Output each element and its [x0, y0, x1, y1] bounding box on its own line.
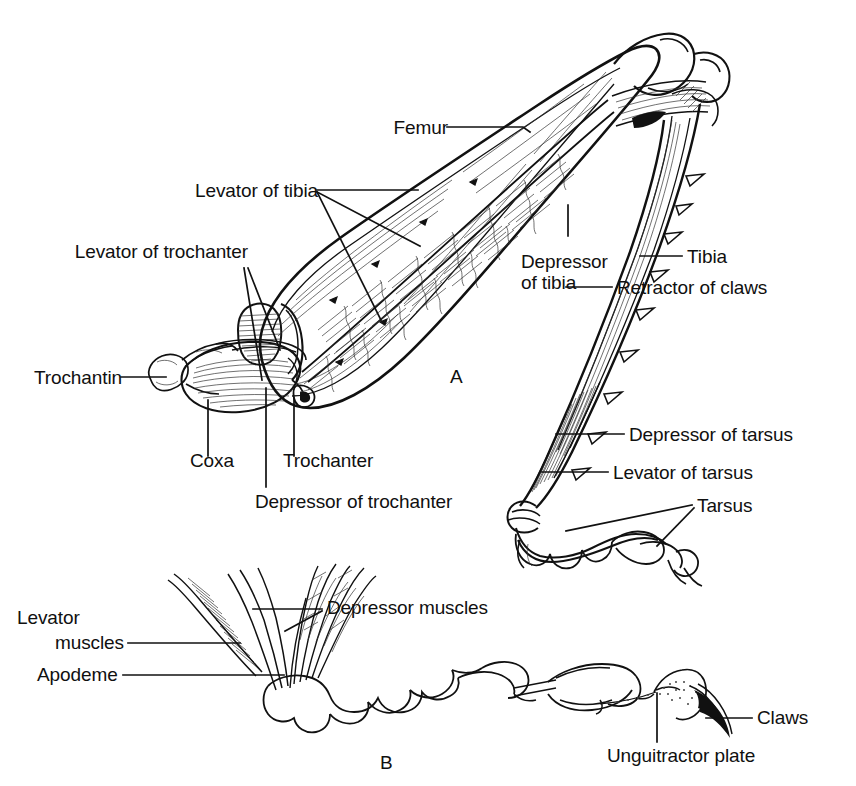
- label-levator-muscles-line2: muscles: [55, 632, 124, 653]
- label-depressor-muscles: Depressor muscles: [327, 597, 488, 618]
- label-levator-of-tibia: Levator of tibia: [20, 180, 318, 201]
- label-claws: Claws: [757, 707, 808, 728]
- figure-label-a: A: [450, 366, 463, 388]
- figure-label-b: B: [380, 752, 393, 774]
- label-depressor-of-tibia-line1: Depressor: [521, 251, 608, 272]
- label-depressor-of-tibia-line2: of tibia: [521, 272, 576, 293]
- femur-group: [260, 46, 659, 408]
- label-levator-of-trochanter: Levator of trochanter: [0, 241, 248, 262]
- label-levator-of-tarsus: Levator of tarsus: [613, 462, 753, 483]
- label-depressor-of-trochanter: Depressor of trochanter: [255, 491, 452, 512]
- label-apodeme: Apodeme: [37, 664, 118, 685]
- label-coxa: Coxa: [190, 450, 234, 471]
- femur-muscles: [300, 34, 729, 392]
- label-retractor-of-claws: Retractor of claws: [617, 277, 767, 298]
- tarsus-group-a: [516, 528, 702, 586]
- anatomical-figure: Femur Levator of tibia Levator of trocha…: [0, 0, 856, 786]
- coxa-group: [149, 340, 306, 413]
- label-trochantin: Trochantin: [0, 367, 122, 388]
- label-tibia: Tibia: [687, 246, 727, 267]
- label-femur: Femur: [100, 117, 448, 138]
- label-tarsus: Tarsus: [697, 495, 752, 516]
- label-trochanter: Trochanter: [283, 450, 373, 471]
- label-levator-muscles-line1: Levator: [17, 607, 80, 628]
- leader-lines-b: [123, 609, 752, 742]
- label-depressor-of-tarsus: Depressor of tarsus: [629, 424, 793, 445]
- panel-b-group: [168, 564, 732, 738]
- label-unguitractor-plate: Unguitractor plate: [607, 745, 755, 766]
